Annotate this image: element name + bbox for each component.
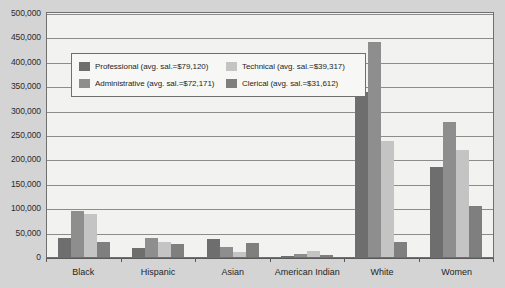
- x-category-label: American Indian: [270, 258, 345, 288]
- y-axis: 500,000450,000400,000350,000300,000250,0…: [0, 0, 46, 288]
- bar: [233, 252, 246, 257]
- y-tick-label: 50,000: [16, 228, 41, 238]
- y-tick-label: 200,000: [11, 154, 41, 164]
- legend-item: Professional (avg. sal.=$79,120): [79, 58, 226, 75]
- x-category-label: White: [345, 258, 420, 288]
- x-category-label: Asian: [195, 258, 270, 288]
- legend-item: Administrative (avg. sal.=$72,171): [79, 75, 226, 92]
- bar: [368, 42, 381, 257]
- bar: [58, 238, 71, 257]
- legend-swatch-icon: [226, 79, 237, 88]
- bar: [456, 150, 469, 257]
- bar: [394, 242, 407, 257]
- legend-label: Technical (avg. sal.=$39,317): [242, 62, 345, 71]
- x-category-label: Black: [46, 258, 121, 288]
- bar: [307, 251, 320, 257]
- x-axis: BlackHispanicAsianAmerican IndianWhiteWo…: [46, 258, 494, 288]
- x-category-label: Women: [419, 258, 494, 288]
- bar-group: [344, 13, 418, 257]
- bar: [355, 92, 368, 257]
- chart-legend: Professional (avg. sal.=$79,120)Technica…: [71, 53, 366, 97]
- bars-layer: [47, 13, 493, 257]
- bar: [171, 244, 184, 257]
- bar: [132, 248, 145, 257]
- bar: [97, 242, 110, 257]
- y-tick-label: 300,000: [11, 106, 41, 116]
- bar: [381, 141, 394, 257]
- legend-label: Administrative (avg. sal.=$72,171): [95, 79, 214, 88]
- bar: [320, 255, 333, 257]
- legend-item: Technical (avg. sal.=$39,317): [226, 58, 367, 75]
- bar: [207, 239, 220, 257]
- bar-chart: 500,000450,000400,000350,000300,000250,0…: [0, 0, 505, 288]
- y-tick-label: 150,000: [11, 179, 41, 189]
- y-tick-label: 500,000: [11, 8, 41, 18]
- bar-group: [47, 13, 121, 257]
- bar: [220, 247, 233, 257]
- legend-label: Professional (avg. sal.=$79,120): [95, 62, 208, 71]
- y-tick-label: 450,000: [11, 32, 41, 42]
- legend-label: Clerical (avg. sal.=$31,612): [242, 79, 338, 88]
- bar-group: [196, 13, 270, 257]
- bar-group: [270, 13, 344, 257]
- bar: [145, 238, 158, 257]
- bar-group: [419, 13, 493, 257]
- legend-item: Clerical (avg. sal.=$31,612): [226, 75, 367, 92]
- bar: [430, 167, 443, 257]
- bar: [84, 214, 97, 257]
- y-tick-label: 400,000: [11, 57, 41, 67]
- x-category-label: Hispanic: [121, 258, 196, 288]
- bar: [469, 206, 482, 257]
- bar: [71, 211, 84, 257]
- bar: [294, 254, 307, 257]
- bar: [246, 243, 259, 257]
- legend-swatch-icon: [226, 62, 237, 71]
- legend-swatch-icon: [79, 79, 90, 88]
- y-tick-label: 350,000: [11, 81, 41, 91]
- plot-area: [46, 12, 494, 258]
- y-tick-label: 100,000: [11, 203, 41, 213]
- bar: [158, 242, 171, 257]
- bar-group: [121, 13, 195, 257]
- legend-swatch-icon: [79, 62, 90, 71]
- bar: [443, 122, 456, 257]
- y-tick-label: 250,000: [11, 130, 41, 140]
- bar: [281, 256, 294, 257]
- y-tick-label: 0: [36, 252, 41, 262]
